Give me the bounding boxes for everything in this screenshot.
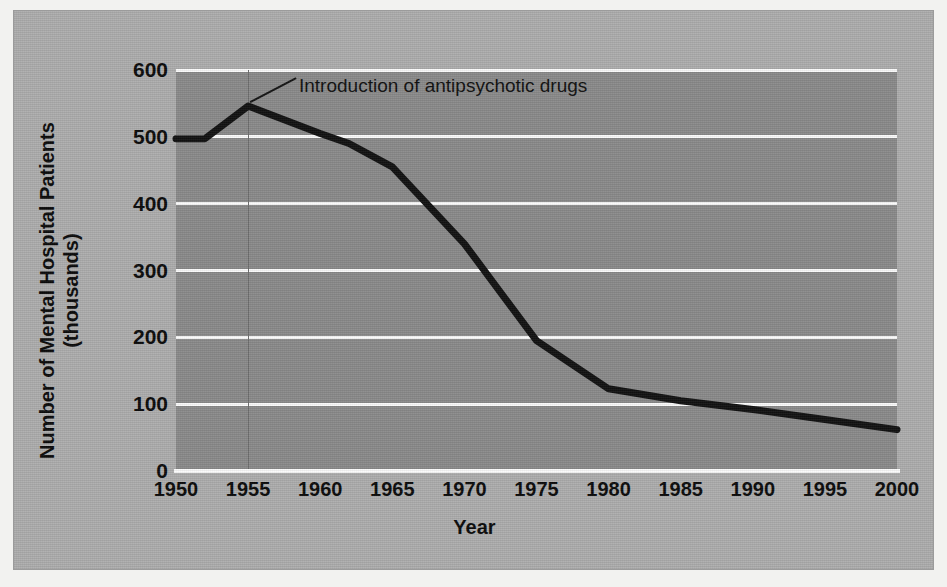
x-tick-label-1955: 1955 [213, 479, 283, 499]
x-tick-label-1980: 1980 [574, 479, 644, 499]
annotation-leader-line [176, 70, 897, 471]
chart-page: Introduction of antipsychotic drugs 0100… [0, 0, 947, 587]
x-tick-label-1970: 1970 [429, 479, 499, 499]
x-tick-label-1985: 1985 [646, 479, 716, 499]
y-axis-title-line-2: (thousands) [60, 233, 82, 347]
y-axis-title: Number of Mental Hospital Patients (thou… [36, 91, 83, 491]
y-tick-label-400: 400 [106, 193, 168, 214]
y-tick-label-100: 100 [106, 393, 168, 414]
y-tick-label-200: 200 [106, 326, 168, 347]
x-tick-label-1995: 1995 [790, 479, 860, 499]
x-tick-label-1975: 1975 [502, 479, 572, 499]
x-tick-label-1950: 1950 [141, 479, 211, 499]
y-tick-label-600: 600 [106, 59, 168, 80]
y-axis-title-line-1: Number of Mental Hospital Patients [36, 122, 58, 459]
x-tick-label-1960: 1960 [285, 479, 355, 499]
x-tick-label-2000: 2000 [862, 479, 932, 499]
annotation-label-antipsychotic-drugs: Introduction of antipsychotic drugs [299, 75, 587, 97]
x-axis-title: Year [14, 516, 935, 539]
figure-card: Introduction of antipsychotic drugs 0100… [13, 10, 934, 570]
y-tick-label-300: 300 [106, 260, 168, 281]
x-tick-label-1990: 1990 [718, 479, 788, 499]
x-tick-label-1965: 1965 [357, 479, 427, 499]
y-tick-label-500: 500 [106, 126, 168, 147]
